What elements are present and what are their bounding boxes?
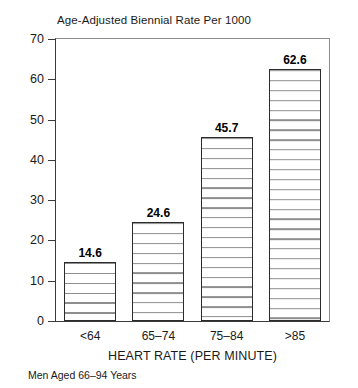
y-axis-tick [48,39,56,40]
bar: 24.6 [132,222,184,321]
y-axis-label: 60 [30,73,44,86]
y-axis-label: 50 [30,113,44,126]
y-axis-label: 20 [30,234,44,247]
bar: 14.6 [64,262,116,321]
x-axis-category-label: 75–84 [210,329,243,343]
chart-footnote: Men Aged 66–94 Years [28,369,137,381]
y-axis-label: 30 [30,194,44,207]
y-axis-label: 0 [37,315,44,328]
plot-area: 010203040506070<6414.665–7424.675–8445.7… [55,38,330,322]
bar-value-label: 45.7 [215,121,238,135]
x-axis-category-label: >85 [285,329,305,343]
y-axis-tick [48,281,56,282]
y-axis-tick [48,79,56,80]
bar-value-label: 24.6 [147,206,170,220]
y-axis-tick [48,240,56,241]
bar-chart-figure: Age-Adjusted Biennial Rate Per 1000 0102… [0,0,358,388]
y-axis-tick [48,120,56,121]
y-axis-label: 70 [30,33,44,46]
bar-value-label: 62.6 [283,53,306,67]
x-axis-title: HEART RATE (PER MINUTE) [55,349,330,363]
x-axis-category-label: 65–74 [142,329,175,343]
bar: 45.7 [201,137,253,321]
y-axis-label: 40 [30,154,44,167]
bar: 62.6 [269,69,321,321]
y-axis-label: 10 [30,274,44,287]
chart-title: Age-Adjusted Biennial Rate Per 1000 [57,14,251,26]
y-axis-tick [48,321,56,322]
y-axis-tick [48,200,56,201]
x-axis-category-label: <64 [80,329,100,343]
y-axis-tick [48,160,56,161]
bar-value-label: 14.6 [78,246,101,260]
